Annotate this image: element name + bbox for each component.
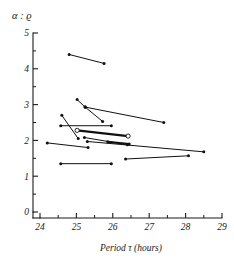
data-point-filled [59,124,62,127]
x-axis-title: Period τ (hours) [99,243,162,254]
series-segment [77,130,128,136]
data-point-open [75,128,79,132]
x-tick-label: 26 [108,222,118,232]
data-point-open [126,134,130,138]
series-segment [69,54,104,63]
series-segment [62,115,78,138]
data-point-filled [110,162,113,165]
data-series [46,53,206,165]
data-point-filled [46,141,49,144]
x-tick-label: 25 [72,222,82,232]
data-point-filled [83,136,86,139]
series-segment [85,107,164,122]
y-tick-label: 1 [24,172,29,182]
data-point-filled [60,114,63,117]
axis-labels: 012345242526272829α : ϱPeriod τ (hours) [12,10,227,254]
data-point-filled [110,124,113,127]
x-tick-label: 27 [144,222,155,232]
data-point-filled [76,98,79,101]
data-point-filled [77,137,80,140]
data-point-filled [86,140,89,143]
series-segment [47,143,88,148]
series-segment [87,141,203,151]
series-segment [77,100,85,108]
data-point-filled [87,146,90,149]
data-point-filled [84,106,87,109]
y-tick-label: 2 [24,136,29,146]
data-point-filled [187,154,190,157]
y-axis-title: α : ϱ [12,10,32,21]
chart-page: 012345242526272829α : ϱPeriod τ (hours) [0,0,234,268]
data-point-filled [162,121,165,124]
data-point-filled [103,62,106,65]
x-tick-label: 28 [181,222,191,232]
data-point-filled [202,150,205,153]
x-tick-label: 24 [35,222,45,232]
data-point-filled [68,53,71,56]
y-tick-label: 0 [24,207,29,217]
data-point-filled [59,162,62,165]
y-tick-label: 4 [24,64,29,74]
x-tick-label: 29 [217,222,227,232]
y-tick-label: 3 [23,100,29,110]
data-point-filled [124,158,127,161]
data-point-filled [101,120,104,123]
y-tick-label: 5 [24,28,29,38]
series-segment [126,156,189,159]
scatter-line-plot: 012345242526272829α : ϱPeriod τ (hours) [0,0,234,268]
